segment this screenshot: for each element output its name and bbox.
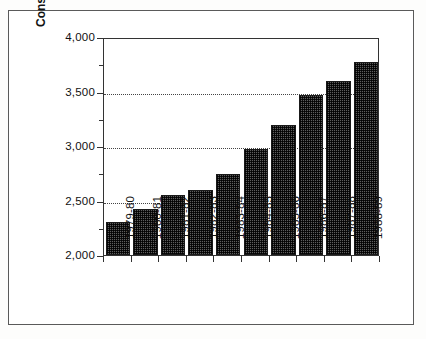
x-tick-label-1981-82: 1981-82 (178, 196, 192, 266)
x-tick-label-1985-86: 1985-86 (288, 196, 302, 266)
x-tick-label-1983-84: 1983-84 (233, 196, 247, 266)
y-tick-label-2500: 2,500 (65, 196, 95, 208)
y-tick-label-3000: 3,000 (65, 141, 95, 153)
y-tick-label-2000: 2,000 (65, 250, 95, 262)
x-tick-label-1987-88: 1987-88 (344, 196, 358, 266)
x-tick-label-1980-81: 1980-81 (150, 196, 164, 266)
y-axis-title: Constant Dollars (Millions) (30, 0, 52, 60)
y-tick-label-3500: 3,500 (65, 87, 95, 99)
figure-root: Constant Dollars (Millions) 2,0002,5003,… (0, 0, 426, 339)
x-tick-label-1979-80: 1979-80 (123, 196, 137, 266)
x-tick-label-1982-83: 1982-83 (206, 196, 220, 266)
x-tick-label-1988-89: 1988-89 (371, 196, 385, 266)
y-tick-label-4000: 4,000 (65, 32, 95, 44)
x-tick-label-1984-85: 1984-85 (261, 196, 275, 266)
x-tick-0 (103, 256, 104, 262)
x-tick-label-1986-87: 1986-87 (316, 196, 330, 266)
